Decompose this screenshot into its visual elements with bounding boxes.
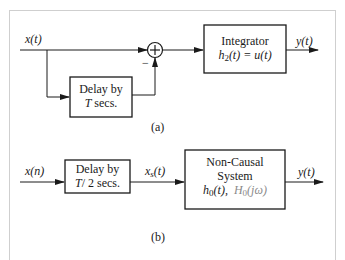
b-mid-label: xs(t) — [145, 165, 165, 178]
a-input-label: x(t) — [25, 33, 42, 46]
frequency-response-label: H0(jω) — [234, 183, 267, 197]
b-delay-block-text: Delay by T/ 2 secs. — [65, 162, 130, 190]
integrator-block-text: Integrator h2(t) = u(t) — [204, 34, 286, 62]
a-output-label: y(t) — [296, 35, 313, 48]
system-line2: System — [185, 169, 285, 183]
a-delay-block-text: Delay by T secs. — [70, 82, 132, 110]
a-delay-line2: T secs. — [70, 96, 132, 110]
b-delay-line2: T/ 2 secs. — [65, 176, 130, 190]
a-branch-to-delay-arrow — [47, 50, 69, 97]
system-functions: h0(t), H0(jω) — [185, 183, 285, 197]
a-delay-line1: Delay by — [70, 82, 132, 96]
b-input-label: x(n) — [25, 165, 44, 178]
noncausal-system-text: Non-Causal System h0(t), H0(jω) — [185, 155, 285, 197]
integrator-title: Integrator — [204, 34, 286, 48]
system-line1: Non-Causal — [185, 155, 285, 169]
b-delay-line1: Delay by — [65, 162, 130, 176]
summer-minus-sign: − — [142, 57, 149, 70]
integrator-equation: h2(t) = u(t) — [204, 48, 286, 62]
caption-b: (b) — [151, 231, 165, 244]
caption-a: (a) — [151, 121, 164, 134]
b-output-label: y(t) — [298, 166, 315, 179]
